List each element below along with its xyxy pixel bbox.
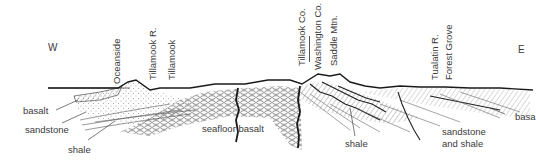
place-label-saddle-mountain: Saddle Mtn. [329, 15, 339, 66]
rock-label-sandstone-west: sandstone [25, 125, 69, 135]
rock-label-and-shale-east: and shale [442, 139, 483, 149]
place-label-tillamook-county: Tillamook Co. [297, 8, 307, 66]
place-label-washington-county: Washington Co. [313, 3, 323, 70]
rock-label-basalt-east: basa [515, 112, 536, 122]
place-label-oceanside: Oceanside [112, 39, 122, 84]
rock-label-seafloor-basalt: seafloor basalt [202, 124, 264, 134]
place-label-forest-grove: Forest Grove [444, 25, 454, 80]
rock-label-basalt-west: basalt [23, 106, 48, 116]
place-label-tillamook: Tillamook [167, 40, 177, 80]
rock-label-sandstone-east: sandstone [442, 127, 486, 137]
place-label-tualatin-river: Tualatin R. [430, 34, 440, 80]
county-boundary-line [309, 36, 310, 62]
rock-label-shale-center: shale [345, 139, 368, 149]
east-label: E [518, 44, 525, 55]
west-label: W [48, 42, 57, 53]
rock-label-shale-west: shale [68, 145, 91, 155]
place-label-tillamook-river: Tillamook R. [148, 28, 158, 80]
